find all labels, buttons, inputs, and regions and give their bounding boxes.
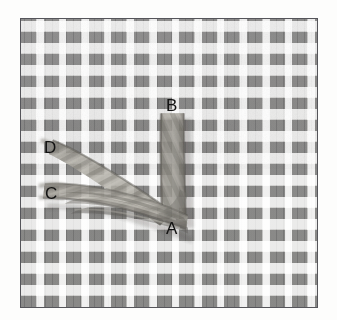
point-label-c: C — [45, 185, 57, 202]
point-label-a: A — [166, 220, 177, 237]
point-label-b: B — [166, 97, 177, 114]
point-label-d: D — [44, 139, 56, 156]
photo-frame: B D C A — [20, 18, 318, 308]
figure-container: B D C A — [0, 0, 337, 320]
canvas-mesh-texture — [21, 19, 317, 307]
